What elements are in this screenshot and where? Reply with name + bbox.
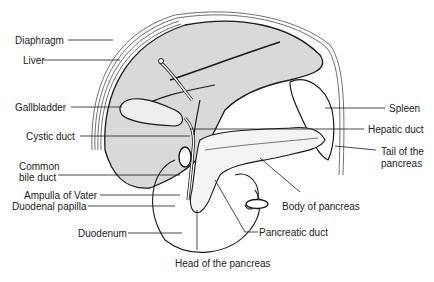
label-duodenum: Duodenum (78, 228, 127, 239)
label-duodenal-papilla: Duodenal papilla (12, 201, 87, 212)
label-gallbladder: Gallbladder (15, 102, 66, 113)
label-pancreatic-duct: Pancreatic duct (259, 227, 328, 238)
label-head-of-pancreas: Head of the pancreas (175, 258, 271, 269)
label-hepatic-duct: Hepatic duct (368, 124, 424, 135)
label-common-bile-duct-line1: Common (19, 161, 60, 172)
label-common-bile-duct-line2: bile duct (19, 172, 56, 183)
label-diaphragm: Diaphragm (15, 35, 64, 46)
label-liver: Liver (23, 55, 45, 66)
label-ampulla-of-vater: Ampulla of Vater (24, 190, 97, 201)
label-tail-of-pancreas-line2: pancreas (381, 158, 422, 169)
label-spleen: Spleen (389, 103, 420, 114)
label-tail-of-pancreas-line1: Tail of the (381, 146, 424, 157)
label-cystic-duct: Cystic duct (26, 131, 75, 142)
anatomy-diagram: Diaphragm Liver Gallbladder Cystic duct … (0, 0, 434, 282)
label-body-of-pancreas: Body of pancreas (282, 201, 360, 212)
